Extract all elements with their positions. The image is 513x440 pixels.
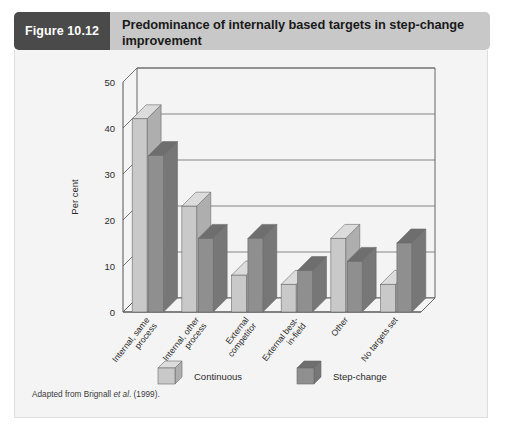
bar-front-face	[132, 119, 147, 312]
x-axis-category-label-2: Externalcompetitor	[218, 315, 258, 359]
bar-front-face	[347, 261, 362, 312]
bar-front-face	[381, 284, 396, 312]
source-note-suffix: . (1999).	[129, 390, 160, 399]
x-axis-category-label-4: Other	[329, 315, 350, 338]
bar-stepchange-2	[248, 224, 277, 312]
figure-title: Predominance of internally based targets…	[122, 17, 478, 48]
bar-side-face	[263, 224, 277, 312]
bar-front-face	[331, 238, 346, 312]
y-axis-tick-label: 10	[104, 261, 115, 272]
x-axis-category-label-0: Internal, sameprocess	[110, 315, 159, 370]
legend-swatch-front	[297, 368, 314, 384]
figure-header-band: Figure 10.12 Predominance of internally …	[14, 12, 490, 50]
bar-front-face	[248, 238, 263, 312]
bar-front-face	[149, 156, 164, 312]
bar-front-face	[182, 206, 197, 312]
bar-stepchange-4	[347, 247, 376, 312]
figure-number-badge: Figure 10.12	[14, 12, 110, 50]
legend-label: Continuous	[194, 371, 242, 382]
bar-chart: 01020304050Per centInternal, sameprocess…	[15, 50, 489, 418]
figure-container: Figure 10.12 Predominance of internally …	[14, 12, 490, 420]
y-tick-connector	[123, 68, 137, 82]
x-axis-label-line: No targets set	[359, 315, 400, 364]
y-axis-tick-label: 20	[104, 215, 115, 226]
bar-side-face	[412, 229, 426, 312]
bar-front-face	[232, 275, 247, 312]
bar-front-face	[281, 284, 296, 312]
x-axis-category-label-3: External best-in-field	[260, 315, 308, 369]
bar-stepchange-1	[198, 224, 227, 312]
y-axis-tick-label: 40	[104, 123, 115, 134]
chart-svg: 01020304050Per centInternal, sameprocess…	[15, 50, 489, 418]
figure-body-panel: 01020304050Per centInternal, sameprocess…	[14, 50, 488, 418]
y-axis-tick-label: 30	[104, 169, 115, 180]
legend-item-stepchange[interactable]: Step-change	[297, 361, 387, 384]
x-axis-label-line: Other	[329, 315, 350, 338]
figure-source-note: Adapted from Brignall et al. (1999).	[32, 390, 160, 399]
figure-number-label: Figure 10.12	[25, 24, 99, 38]
bar-side-face	[163, 142, 177, 312]
bar-stepchange-0	[149, 142, 178, 312]
y-axis-tick-label: 0	[110, 307, 115, 318]
bar-front-face	[198, 238, 213, 312]
bar-stepchange-5	[397, 229, 426, 312]
source-note-prefix: Adapted from Brignall	[32, 390, 113, 399]
y-axis-title: Per cent	[69, 179, 80, 215]
legend-item-continuous[interactable]: Continuous	[158, 361, 242, 384]
bar-front-face	[397, 243, 412, 312]
x-axis-category-label-5: No targets set	[359, 315, 400, 364]
legend-swatch-front	[158, 368, 175, 384]
source-note-italic: et al	[113, 390, 129, 399]
bar-side-face	[213, 224, 227, 312]
legend-label: Step-change	[333, 371, 387, 382]
y-axis-tick-label: 50	[104, 77, 115, 88]
bar-front-face	[298, 271, 313, 312]
